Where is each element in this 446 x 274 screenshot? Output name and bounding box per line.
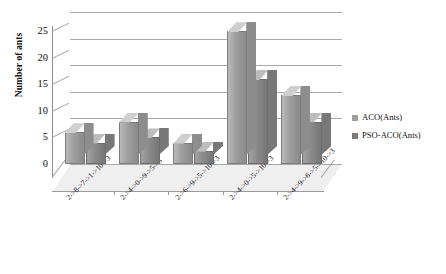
- y-axis-tick-mark: [44, 137, 48, 138]
- bar-face: [173, 143, 193, 164]
- legend-item-label: ACO(Ants): [362, 113, 402, 122]
- y-axis-tick-mark: [44, 58, 48, 59]
- legend-item: PSO-ACO(Ants): [352, 131, 446, 140]
- bar: [173, 143, 193, 164]
- bar-side: [159, 128, 169, 155]
- legend: ACO(Ants) PSO-ACO(Ants): [352, 113, 446, 149]
- bar-face: [281, 95, 301, 164]
- bar-chart: Number of ants 0510152025 2->8->7->1->10…: [0, 0, 446, 274]
- bar-side: [267, 70, 277, 155]
- y-axis-tick-labels: 0510152025: [18, 0, 48, 274]
- bar-side: [300, 86, 310, 155]
- bar-side: [105, 134, 115, 155]
- y-axis-tick-mark: [44, 31, 48, 32]
- bar-face: [65, 132, 85, 164]
- y-axis-tick-mark: [44, 84, 48, 85]
- bar-face: [119, 122, 139, 164]
- legend-item-label: PSO-ACO(Ants): [362, 131, 421, 140]
- y-axis-tick-mark: [44, 111, 48, 112]
- bar-side: [213, 142, 223, 155]
- bar-face: [227, 31, 247, 164]
- legend-swatch-icon: [352, 133, 358, 139]
- legend-item: ACO(Ants): [352, 113, 446, 122]
- bar: [281, 95, 301, 164]
- legend-swatch-icon: [352, 115, 358, 121]
- bar-side: [246, 22, 256, 155]
- bar: [65, 132, 85, 164]
- bar-face: [194, 151, 214, 164]
- bar: [227, 31, 247, 164]
- x-axis-tick-labels: 2->8->7->1->10->32->4->0->9->5->32->6->9…: [52, 196, 352, 274]
- bar: [119, 122, 139, 164]
- y-axis-tick-mark: [44, 164, 48, 165]
- bar: [194, 151, 214, 164]
